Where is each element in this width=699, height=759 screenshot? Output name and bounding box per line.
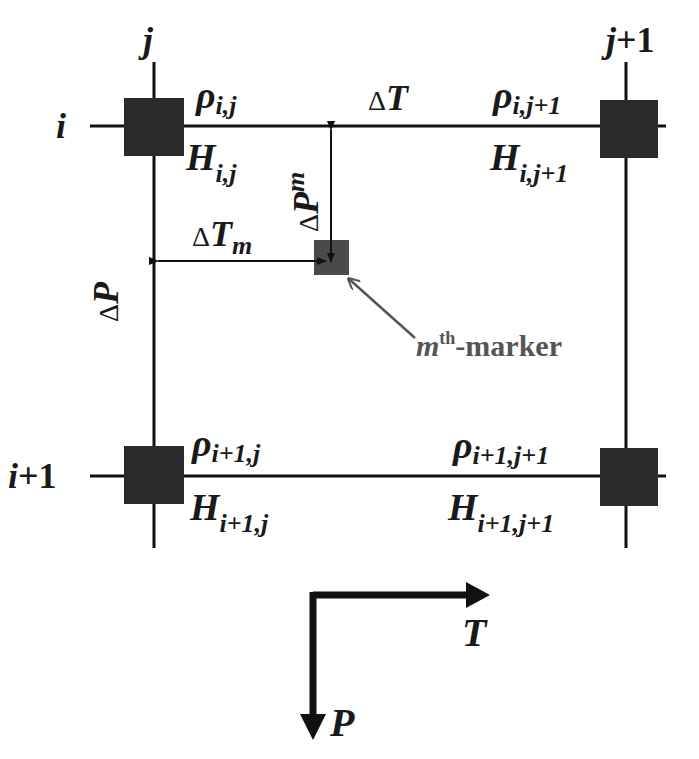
node-i-j [124,98,184,156]
h-i1-j1: Hi+1,j+1 [447,486,554,538]
rho-i-j: ρi,j [195,74,237,120]
column-label-j: j [138,20,154,60]
h-i-j1: Hi,j+1 [489,136,568,188]
row-label-i: i [56,106,66,146]
delta-pm-label: ΔPm [281,172,326,232]
rho-i1-j1: ρi+1,j+1 [452,424,549,470]
rho-i-j1: ρi,j+1 [492,74,561,120]
delta-tm-label: ΔTm [192,214,252,260]
delta-t-label: ΔT [368,78,410,118]
row-label-i1: i+1 [8,456,57,496]
node-i1-j [124,446,184,504]
node-i-j1 [600,100,658,158]
rho-i1-j: ρi+1,j [191,422,261,468]
axis-p-label: P [329,700,355,745]
h-i-j: Hi,j [185,136,237,188]
grid-diagram: j j+1 i i+1 ρi,j Hi,j ρi,j+1 Hi,j+1 ρi+1… [0,0,699,759]
column-label-j1: j+1 [601,20,655,60]
delta-p-label: ΔP [86,281,126,322]
h-i1-j: Hi+1,j [189,486,269,538]
axes-indicator [300,582,490,740]
mth-marker-label: mth-marker [416,328,562,362]
node-i1-j1 [600,448,658,506]
marker-pointer [349,279,415,338]
axis-t-label: T [462,610,488,655]
